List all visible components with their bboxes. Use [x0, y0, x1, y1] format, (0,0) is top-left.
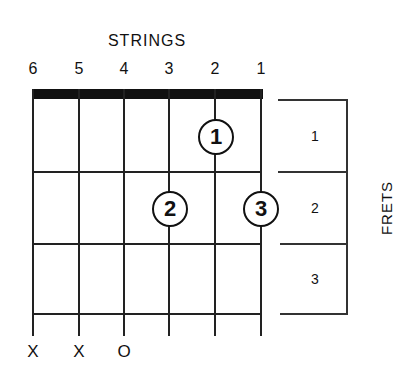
- finger-dot-1: 1: [198, 119, 234, 155]
- string-line-4: [123, 89, 125, 336]
- fret-bracket-divider-1: [278, 171, 348, 173]
- string-number-4: 4: [114, 60, 134, 78]
- fret-line-2: [33, 243, 262, 245]
- open-marker-4: O: [114, 342, 134, 362]
- fret-line-3: [33, 313, 262, 315]
- frets-title: FRETS: [378, 181, 395, 235]
- string-number-5: 5: [69, 60, 89, 78]
- muted-marker-6: X: [23, 342, 43, 362]
- finger-dot-2: 2: [152, 191, 188, 227]
- muted-marker-5: X: [69, 342, 89, 362]
- fret-bracket-bottom: [280, 313, 348, 315]
- strings-title: STRINGS: [33, 32, 261, 50]
- fret-label-3: 3: [300, 271, 330, 287]
- string-number-1: 1: [251, 60, 271, 78]
- fret-label-1: 1: [300, 128, 330, 144]
- finger-dot-3: 3: [243, 191, 279, 227]
- string-line-6: [32, 89, 34, 336]
- string-number-3: 3: [159, 60, 179, 78]
- string-line-5: [78, 89, 80, 336]
- fret-bracket-vertical: [346, 99, 348, 315]
- fret-label-2: 2: [300, 200, 330, 216]
- string-number-6: 6: [23, 60, 43, 78]
- fret-bracket-top: [278, 99, 348, 101]
- nut: [32, 89, 263, 99]
- fret-line-1: [33, 171, 262, 173]
- string-number-2: 2: [205, 60, 225, 78]
- fret-bracket-divider-2: [280, 243, 348, 245]
